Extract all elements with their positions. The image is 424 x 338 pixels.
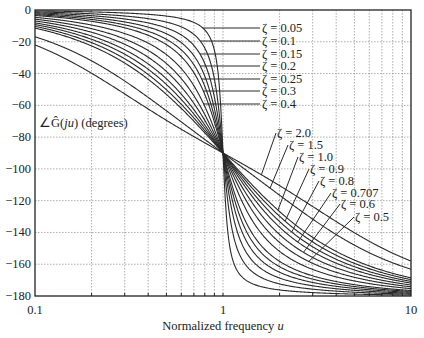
phase-plot: 0−20−40−60−80−100−120−140−160−180 0.1110… xyxy=(0,0,424,338)
zeta-label: ζ = 0.3 xyxy=(262,84,296,98)
x-axis-label: Normalized frequency u xyxy=(162,319,283,333)
label-leader xyxy=(285,169,309,221)
zeta-labels: ζ = 0.05ζ = 0.1ζ = 0.15ζ = 0.2ζ = 0.25ζ … xyxy=(262,21,389,224)
y-tick-label: −140 xyxy=(5,225,31,239)
label-leader xyxy=(303,204,340,252)
x-tick-label: 0.1 xyxy=(27,303,43,317)
label-leader xyxy=(278,157,298,210)
label-leader xyxy=(270,145,288,188)
label-leader xyxy=(261,133,276,175)
y-axis-label: ∠Ĝ(ju) (degrees) xyxy=(39,116,128,130)
zeta-label: ζ = 0.1 xyxy=(262,34,296,48)
y-tick-label: −40 xyxy=(11,67,31,81)
zeta-label: ζ = 0.6 xyxy=(341,197,375,211)
x-tick-label: 10 xyxy=(405,303,418,317)
y-tick-label: −20 xyxy=(11,35,31,49)
zeta-label: ζ = 0.2 xyxy=(262,59,296,73)
y-tick-label: −120 xyxy=(5,194,31,208)
y-tick-label: 0 xyxy=(25,3,31,17)
y-tick-labels: 0−20−40−60−80−100−120−140−160−180 xyxy=(5,3,31,303)
y-tick-label: −160 xyxy=(5,257,31,271)
zeta-label: ζ = 0.5 xyxy=(355,210,389,224)
y-tick-label: −100 xyxy=(5,162,31,176)
y-tick-label: −180 xyxy=(5,289,31,303)
x-tick-labels: 0.1110 xyxy=(27,303,417,317)
y-tick-label: −80 xyxy=(11,130,31,144)
zeta-label: ζ = 0.4 xyxy=(262,97,297,111)
zeta-label: ζ = 0.05 xyxy=(262,21,302,35)
y-tick-label: −60 xyxy=(11,98,31,112)
x-tick-label: 1 xyxy=(220,303,226,317)
